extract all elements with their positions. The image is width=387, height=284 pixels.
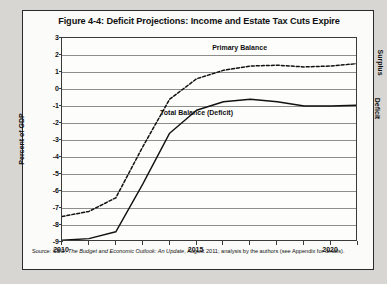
series-label-total-balance: Total Balance (Deficit) bbox=[160, 109, 233, 116]
y-axis: 3210-1-2-3-4-5-6-7-8-9 bbox=[41, 37, 59, 241]
source-publication: The Budget and Economic Outlook: An Upda… bbox=[68, 248, 184, 254]
x-tick-mark bbox=[249, 241, 250, 245]
x-tick-mark bbox=[276, 241, 277, 245]
x-tick-mark bbox=[357, 241, 358, 245]
series-layer bbox=[62, 38, 357, 241]
series-line-primary-balance bbox=[62, 64, 357, 217]
source-note: Source: CBO, The Budget and Economic Out… bbox=[32, 247, 368, 256]
x-tick-mark bbox=[115, 241, 116, 245]
screenshot-page: Figure 4-4: Deficit Projections: Income … bbox=[0, 0, 387, 284]
x-tick-mark bbox=[169, 241, 170, 245]
x-tick-mark bbox=[303, 241, 304, 245]
y-axis-title: Percent of GDP bbox=[18, 113, 25, 164]
side-label-surplus: Surplus bbox=[377, 49, 384, 75]
source-suffix: , August 2011; analysis by the authors (… bbox=[184, 248, 344, 254]
x-tick-mark bbox=[222, 241, 223, 245]
x-tick-mark bbox=[88, 241, 89, 245]
plot-area-wrapper: 3210-1-2-3-4-5-6-7-8-9 Percent of GDP Pr… bbox=[61, 37, 357, 241]
series-line-total-balance-deficit bbox=[62, 99, 357, 240]
x-tick-mark bbox=[142, 241, 143, 245]
plot-area: Primary Balance Total Balance (Deficit) bbox=[61, 37, 357, 241]
x-tick-mark bbox=[61, 241, 62, 245]
series-label-primary-balance: Primary Balance bbox=[212, 44, 267, 51]
x-tick-mark bbox=[196, 241, 197, 245]
x-tick-mark bbox=[330, 241, 331, 245]
figure-title: Figure 4-4: Deficit Projections: Income … bbox=[23, 16, 375, 26]
figure-card: Figure 4-4: Deficit Projections: Income … bbox=[22, 10, 374, 270]
side-label-deficit: Deficit bbox=[374, 98, 381, 119]
source-prefix: Source: CBO, bbox=[32, 248, 68, 254]
